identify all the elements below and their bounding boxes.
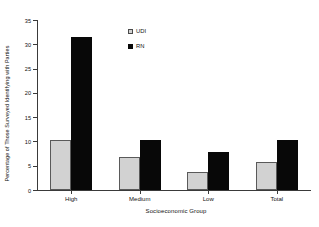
bar-udi-medium [119, 157, 140, 190]
y-axis-tick-label: 5 [28, 163, 31, 169]
legend-item-rn: RN [128, 43, 146, 49]
x-axis-tick [71, 190, 72, 194]
x-axis-line [37, 190, 311, 191]
y-axis-title: Percentage of Those Surveyed Identifying… [0, 0, 14, 227]
bar-chart: Percentage of Those Surveyed Identifying… [0, 0, 319, 227]
x-axis-tick [140, 190, 141, 194]
legend-label: UDI [136, 28, 146, 34]
bar-udi-total [256, 162, 277, 190]
legend: UDIRN [128, 28, 146, 49]
y-axis-tick: 0 [33, 190, 37, 191]
y-axis-tick: 15 [33, 117, 37, 118]
y-axis-tick: 10 [33, 141, 37, 142]
y-axis-tick-label: 30 [25, 42, 31, 48]
y-axis-tick-label: 0 [28, 188, 31, 194]
y-axis-tick: 35 [33, 20, 37, 21]
y-axis-tick: 25 [33, 69, 37, 70]
y-axis-tick-label: 25 [25, 66, 31, 72]
y-axis-tick-label: 15 [25, 115, 31, 121]
y-axis-tick-label: 10 [25, 139, 31, 145]
x-axis-tick-label: Low [203, 196, 214, 202]
bar-rn-medium [140, 140, 161, 190]
bar-rn-total [277, 140, 298, 190]
y-axis-tick: 30 [33, 44, 37, 45]
bar-rn-high [71, 37, 92, 190]
x-axis-tick-label: Total [270, 196, 283, 202]
plot-area: 05101520253035 HighMediumLowTotal [37, 20, 311, 190]
x-axis-tick-label: Medium [129, 196, 150, 202]
bar-udi-high [50, 140, 71, 190]
y-axis-tick-label: 20 [25, 90, 31, 96]
legend-item-udi: UDI [128, 28, 146, 34]
y-axis-tick-label: 35 [25, 18, 31, 24]
legend-swatch-rn-icon [128, 44, 133, 49]
x-axis-title: Socioeconomic Group [37, 208, 315, 214]
x-axis-tick-label: High [65, 196, 77, 202]
legend-label: RN [136, 43, 145, 49]
y-axis-tick: 5 [33, 166, 37, 167]
y-axis-line [37, 20, 38, 190]
y-axis-tick: 20 [33, 93, 37, 94]
bar-rn-low [208, 152, 229, 190]
x-axis-tick [208, 190, 209, 194]
legend-swatch-udi-icon [128, 29, 133, 34]
bar-udi-low [187, 172, 208, 190]
x-axis-tick [277, 190, 278, 194]
